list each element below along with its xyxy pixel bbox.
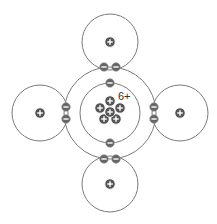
nucleus-charge-label: 6+ bbox=[118, 90, 131, 102]
methane-bonding-diagram: 6+ bbox=[0, 0, 217, 224]
electron-icon bbox=[62, 115, 71, 124]
shared-pair-right bbox=[150, 103, 159, 124]
inner-electron-bottom-icon bbox=[106, 139, 115, 148]
inner-electron-top-icon bbox=[106, 79, 115, 88]
electron-icon bbox=[112, 155, 121, 164]
electron-icon bbox=[62, 103, 71, 112]
electron-icon bbox=[112, 63, 121, 72]
electron-icon bbox=[150, 103, 159, 112]
electron-icon bbox=[150, 115, 159, 124]
hydrogen-nucleus-left-icon bbox=[35, 108, 45, 118]
hydrogen-nucleus-bottom-icon bbox=[105, 179, 115, 189]
electron-icon bbox=[100, 155, 109, 164]
shared-pair-left bbox=[62, 103, 71, 124]
hydrogen-nucleus-right-icon bbox=[175, 108, 185, 118]
proton-icon bbox=[95, 103, 105, 113]
proton-icon bbox=[105, 107, 115, 117]
electron-icon bbox=[100, 63, 109, 72]
hydrogen-nucleus-top-icon bbox=[105, 37, 115, 47]
proton-icon bbox=[115, 103, 125, 113]
proton-icon bbox=[105, 96, 115, 106]
